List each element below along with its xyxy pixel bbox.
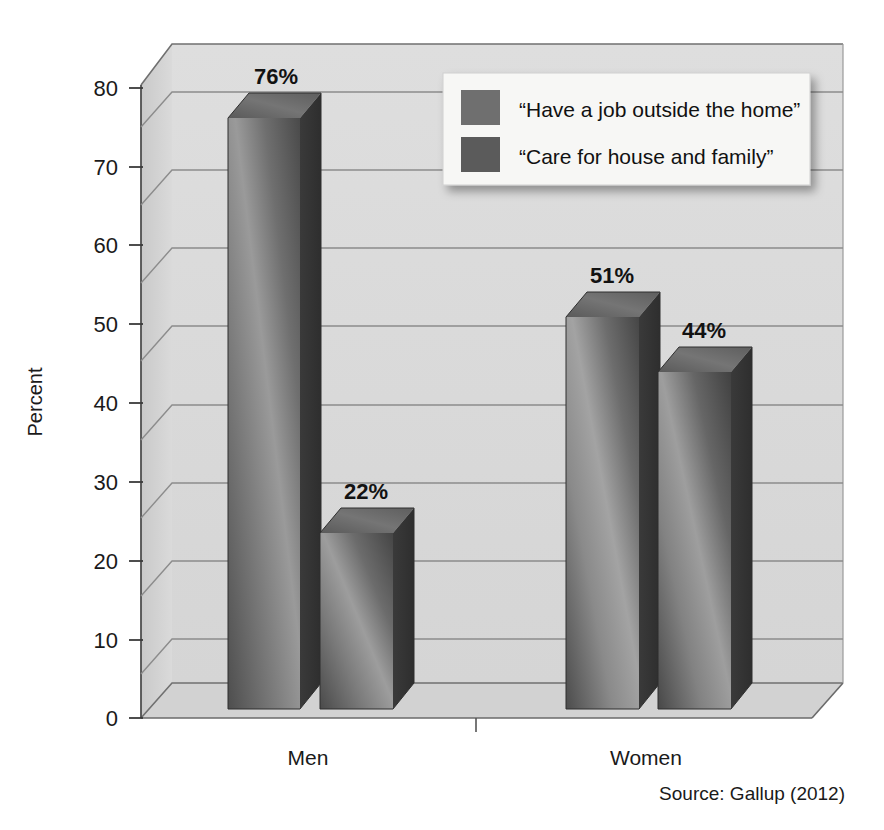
bar-value-label-men-job: 76% [254, 64, 298, 89]
bar-side-face [300, 93, 321, 709]
bar-front-face [228, 118, 300, 709]
bar-chart-figure: 80 70 60 50 40 30 20 10 0 Percent 76% [0, 0, 884, 830]
y-tick-label-50: 50 [94, 312, 118, 337]
legend-label-have-a-job: “Have a job outside the home” [519, 98, 800, 121]
legend-label-care-for-house: “Care for house and family” [519, 145, 773, 168]
bar-value-label-women-job: 51% [590, 263, 634, 288]
y-tick-label-60: 60 [94, 233, 118, 258]
legend-swatch-care-for-house [461, 137, 500, 172]
plot-left-wall [141, 44, 172, 718]
bar-women-have-a-job [566, 292, 660, 709]
x-tick-label-women: Women [610, 746, 682, 769]
bar-value-label-women-care: 44% [682, 318, 726, 343]
bar-side-face [639, 292, 660, 709]
y-tick-label-10: 10 [94, 628, 118, 653]
y-tick-label-0: 0 [106, 706, 118, 731]
y-axis-title: Percent [24, 367, 46, 436]
bar-front-face [566, 317, 639, 709]
bar-men-care-for-house [320, 508, 414, 709]
bar-men-have-a-job [228, 93, 321, 709]
bar-value-label-men-care: 22% [344, 479, 388, 504]
y-tick-label-70: 70 [94, 155, 118, 180]
x-tick-label-men: Men [288, 746, 329, 769]
source-note: Source: Gallup (2012) [659, 783, 845, 804]
legend-swatch-have-a-job [461, 90, 500, 125]
bar-front-face [320, 533, 393, 709]
chart-svg: 80 70 60 50 40 30 20 10 0 Percent 76% [0, 0, 884, 830]
y-tick-label-30: 30 [94, 470, 118, 495]
bar-women-care-for-house [658, 347, 752, 709]
bar-front-face [658, 372, 731, 709]
y-tick-label-20: 20 [94, 549, 118, 574]
y-axis-tick-labels: 80 70 60 50 40 30 20 10 0 [94, 76, 118, 731]
y-tick-label-80: 80 [94, 76, 118, 101]
chart-legend: “Have a job outside the home” “Care for … [443, 73, 810, 185]
bar-side-face [393, 508, 414, 709]
y-tick-label-40: 40 [94, 391, 118, 416]
bar-side-face [731, 347, 752, 709]
